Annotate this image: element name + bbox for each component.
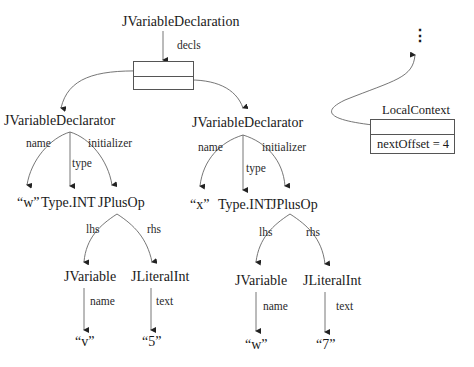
edge-lhs-0 — [84, 214, 117, 262]
edge-label-var-name-0: name — [90, 296, 115, 308]
edge-label-type-1: type — [246, 163, 266, 175]
edge-label-lit-text-0: text — [156, 296, 173, 308]
node-jvariabledeclaration: JVariableDeclaration — [122, 15, 239, 29]
edge-label-var-name-1: name — [263, 301, 288, 313]
local-context-next-offset: nextOffset = 4 — [377, 138, 449, 151]
edge-label-lhs-0: lhs — [86, 224, 99, 236]
edge-label-initializer-1: initializer — [262, 142, 306, 154]
node-jvariable-1: JVariable — [235, 274, 287, 288]
edge-label-name-1: name — [198, 142, 223, 154]
edge-label-initializer-0: initializer — [88, 138, 132, 150]
edge-label-rhs-1: rhs — [306, 227, 320, 239]
node-type-value-1: Type.INT — [218, 198, 273, 212]
edge-label-lhs-1: lhs — [259, 227, 272, 239]
edge-rhs-0 — [117, 214, 152, 262]
node-name-value-1: “x” — [190, 198, 209, 212]
node-name-value-0: “w” — [17, 196, 40, 210]
node-var-value-0: “v” — [75, 335, 94, 349]
node-lit-value-0: “5” — [142, 335, 161, 349]
node-jliteralint-1: JLiteralInt — [303, 274, 361, 288]
node-jvariabledeclarator-0: JVariableDeclarator — [4, 114, 115, 128]
node-jliteralint-0: JLiteralInt — [131, 270, 189, 284]
ellipsis-icon: ⋮ — [412, 28, 428, 44]
local-context-divider — [371, 134, 454, 135]
diagram-edges — [0, 0, 474, 367]
local-context-title: LocalContext — [382, 104, 450, 117]
node-type-value-0: Type.INT — [41, 196, 96, 210]
node-jvariabledeclarator-1: JVariableDeclarator — [192, 116, 303, 130]
decls-array-divider — [134, 76, 193, 77]
edge-label-lit-text-1: text — [336, 301, 353, 313]
edge-rhs-1 — [290, 214, 325, 264]
edge-label-name-0: name — [26, 138, 51, 150]
decls-array-box — [133, 61, 194, 90]
node-lit-value-1: “7” — [316, 338, 335, 352]
edge-label-type-0: type — [72, 158, 92, 170]
node-jplusop-1: JPlusOp — [271, 198, 318, 212]
edge-label-rhs-0: rhs — [147, 224, 161, 236]
edge-decls-0 — [61, 71, 142, 108]
node-var-value-1: “w” — [245, 338, 268, 352]
edge-label-decls: decls — [177, 40, 201, 52]
node-jvariable-0: JVariable — [64, 270, 116, 284]
node-jplusop-0: JPlusOp — [98, 196, 145, 210]
